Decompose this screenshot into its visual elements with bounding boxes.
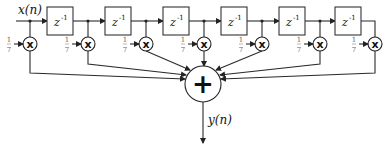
sum-input-line	[220, 51, 320, 75]
delay-exponent: -1	[235, 14, 242, 22]
summation-node: +	[185, 66, 221, 102]
coefficient-numerator: 1	[297, 36, 301, 44]
coefficient-denominator: 7	[65, 46, 69, 54]
delay-exponent: -1	[293, 14, 300, 22]
delay-block: z-1	[279, 7, 305, 35]
delay-exponent: -1	[61, 14, 68, 22]
coefficient-numerator: 1	[181, 36, 185, 44]
sum-input-line	[221, 51, 375, 79]
multiplier: x17	[7, 19, 37, 54]
multiply-icon: x	[371, 38, 378, 51]
coefficient-numerator: 1	[7, 36, 11, 44]
delay-label: z	[169, 16, 176, 29]
delay-exponent: -1	[177, 14, 184, 22]
delay-label: z	[227, 16, 234, 29]
input-label: x(n)	[18, 3, 42, 17]
delay-box	[47, 7, 73, 35]
coefficient-denominator: 7	[181, 46, 185, 54]
delay-block: z-1	[335, 7, 361, 35]
plus-icon: +	[192, 69, 214, 99]
coefficient-numerator: 1	[65, 36, 69, 44]
delay-box	[163, 7, 189, 35]
coefficient-numerator: 1	[239, 36, 243, 44]
fir-filter-diagram: x(n) z-1z-1z-1z-1z-1z-1 x17x17x17x17x17x…	[0, 0, 388, 149]
delay-box	[105, 7, 131, 35]
delay-block: z-1	[221, 7, 247, 35]
delay-exponent: -1	[349, 14, 356, 22]
coefficient-denominator: 7	[352, 46, 356, 54]
multiplier: x17	[352, 36, 382, 54]
delay-box	[335, 7, 361, 35]
sum-input-line	[88, 51, 186, 75]
delay-box	[279, 7, 305, 35]
delay-block: z-1	[163, 7, 189, 35]
multiply-icon: x	[84, 38, 91, 51]
coefficient-denominator: 7	[239, 46, 243, 54]
coefficient-numerator: 1	[123, 36, 127, 44]
multiply-icon: x	[258, 38, 265, 51]
multiply-icon: x	[142, 38, 149, 51]
delay-exponent: -1	[119, 14, 126, 22]
delay-label: z	[111, 16, 118, 29]
multiply-icon: x	[26, 38, 33, 51]
multiply-icon: x	[316, 38, 323, 51]
coefficient-denominator: 7	[297, 46, 301, 54]
coefficient-denominator: 7	[123, 46, 127, 54]
delay-block: z-1	[47, 7, 73, 35]
delay-box	[221, 7, 247, 35]
coefficient-numerator: 1	[352, 36, 356, 44]
output-label: y(n)	[207, 113, 232, 127]
sum-input-line	[30, 51, 185, 79]
coefficient-denominator: 7	[7, 46, 11, 54]
delay-label: z	[285, 16, 292, 29]
delay-label: z	[341, 16, 348, 29]
delay-block: z-1	[105, 7, 131, 35]
multiply-icon: x	[200, 38, 207, 51]
delay-label: z	[53, 16, 60, 29]
